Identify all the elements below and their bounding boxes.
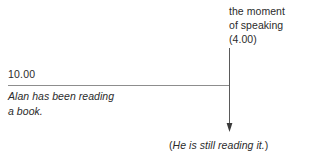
sentence-text: Alan has been reading a book. bbox=[8, 89, 114, 118]
timeline-diagram: the moment of speaking (4.00) 10.00 Alan… bbox=[0, 0, 309, 162]
start-time-label: 10.00 bbox=[8, 68, 35, 81]
sentence-line-1: Alan has been reading bbox=[8, 89, 114, 104]
moment-label-line-3: (4.00) bbox=[229, 32, 285, 46]
sentence-line-2: a book. bbox=[8, 104, 114, 119]
vertical-arrow bbox=[226, 48, 233, 133]
moment-label-line-2: of speaking bbox=[229, 18, 285, 32]
timeline-rule bbox=[8, 85, 229, 86]
down-arrow-icon bbox=[226, 48, 233, 133]
caption-close-paren: ) bbox=[265, 139, 269, 151]
caption-text: He is still reading it. bbox=[173, 139, 265, 151]
moment-label-line-1: the moment bbox=[229, 4, 285, 18]
result-caption: (He is still reading it.) bbox=[169, 139, 268, 152]
moment-of-speaking-label: the moment of speaking (4.00) bbox=[229, 4, 285, 47]
